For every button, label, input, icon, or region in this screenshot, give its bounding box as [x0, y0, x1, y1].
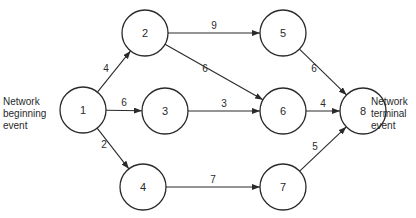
edge-5-8: 6	[299, 49, 346, 95]
node-label: 5	[280, 27, 286, 39]
edge-weight-label: 6	[202, 63, 208, 74]
node-label: 2	[142, 27, 148, 39]
arrow-icon	[299, 49, 346, 95]
edge-weight-label: 7	[210, 174, 216, 185]
network-diagram: 4629637645 12345678	[0, 0, 416, 218]
edge-weight-label: 6	[121, 97, 127, 108]
node-2: 2	[122, 10, 168, 56]
end-label-line-3: event	[371, 120, 408, 132]
edge-weight-label: 6	[311, 63, 317, 74]
node-6: 6	[260, 88, 306, 134]
edge-weight-label: 4	[103, 63, 109, 74]
edge-2-5: 9	[168, 20, 260, 34]
arrow-icon	[165, 44, 263, 99]
edge-7-8: 5	[300, 127, 347, 171]
node-label: 8	[360, 105, 366, 117]
node-label: 7	[280, 181, 286, 193]
edge-weight-label: 5	[312, 141, 318, 152]
edge-4-7: 7	[166, 174, 260, 188]
network-beginning-label: Network beginning event	[3, 96, 46, 132]
start-label-line-2: beginning	[3, 108, 46, 120]
edge-1-3: 6	[106, 97, 142, 111]
arrow-icon	[300, 127, 347, 171]
node-4: 4	[120, 164, 166, 210]
edge-weight-label: 3	[221, 98, 227, 109]
edge-1-4: 2	[97, 128, 129, 169]
start-label-line-3: event	[3, 120, 46, 132]
node-label: 6	[280, 105, 286, 117]
edge-weight-label: 4	[320, 98, 326, 109]
end-label-line-1: Network	[371, 96, 408, 108]
edge-3-6: 3	[188, 98, 260, 112]
edge-weight-label: 2	[101, 139, 107, 150]
node-label: 1	[80, 104, 86, 116]
node-label: 4	[140, 181, 146, 193]
network-terminal-label: Network terminal event	[371, 96, 408, 132]
node-label: 3	[162, 105, 168, 117]
node-3: 3	[142, 88, 188, 134]
end-label-line-2: terminal	[371, 108, 408, 120]
node-5: 5	[260, 10, 306, 56]
node-1: 1	[60, 87, 106, 133]
edge-2-6: 6	[165, 44, 263, 99]
node-7: 7	[260, 164, 306, 210]
edge-6-8: 4	[306, 98, 340, 112]
edge-1-2: 4	[97, 51, 130, 92]
start-label-line-1: Network	[3, 96, 46, 108]
edge-weight-label: 9	[211, 20, 217, 31]
